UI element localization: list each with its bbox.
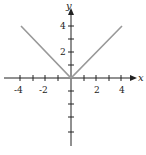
y-tick-label: 2 — [60, 47, 66, 57]
x-axis-arrow-icon — [130, 75, 137, 81]
x-tick-label: 2 — [94, 85, 100, 95]
x-tick-label: 4 — [119, 85, 125, 95]
x-tick-label: -2 — [39, 85, 48, 95]
x-tick-label: -4 — [14, 85, 23, 95]
abs-value-graph: -4 -2 2 4 4 2 x y — [0, 0, 146, 155]
y-axis-label: y — [65, 0, 72, 11]
x-axis-label: x — [138, 72, 144, 83]
y-tick-label: 4 — [60, 21, 66, 31]
